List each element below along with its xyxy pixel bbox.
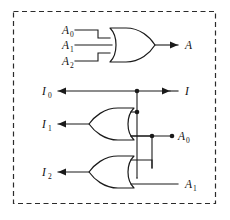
label-a0-top-sub: 0 — [70, 30, 74, 39]
label-i2-sub: 2 — [48, 172, 52, 181]
label-i0-sub: 0 — [48, 91, 52, 100]
circuit-diagram-figure: A 0 A 1 A 2 A I 0 I I 1 — [0, 0, 230, 220]
label-a2-top-sub: 2 — [70, 61, 74, 70]
or-gate-bottom — [89, 156, 134, 188]
terminal-dot-a0-output — [170, 134, 175, 139]
wire-or-bottom-input-top — [131, 160, 152, 168]
arrowhead-i2-output — [58, 169, 66, 176]
label-i-input: I — [184, 85, 190, 97]
label-a2-top: A — [61, 55, 70, 67]
arrowhead-i1-output — [58, 121, 66, 128]
label-a1-top: A — [61, 39, 70, 51]
wire-a0-to-or-top — [75, 30, 110, 38]
label-i0: I — [41, 85, 47, 97]
label-i1-sub: 1 — [48, 124, 52, 133]
wire-a2-to-or-top — [75, 53, 110, 61]
label-a0-output: A — [177, 130, 186, 142]
label-a1-top-sub: 1 — [70, 45, 74, 54]
circuit-svg-canvas: A 0 A 1 A 2 A I 0 I I 1 — [0, 0, 230, 220]
arrowhead-a-output — [170, 42, 178, 49]
junction-dot-i-bus-top — [135, 89, 140, 94]
label-a1-input: A — [184, 178, 193, 190]
or-gate-middle — [89, 108, 134, 140]
or-gate-top — [110, 28, 155, 62]
label-a0-top: A — [61, 24, 70, 36]
label-a0-output-sub: 0 — [186, 136, 190, 145]
arrowhead-i-input — [162, 88, 170, 95]
junction-dot-i-bus-middle — [135, 110, 140, 115]
arrowhead-i0-output — [58, 88, 66, 95]
label-a-output: A — [184, 39, 193, 51]
label-a1-input-sub: 1 — [193, 184, 197, 193]
label-i2: I — [41, 166, 47, 178]
label-i1: I — [41, 118, 47, 130]
